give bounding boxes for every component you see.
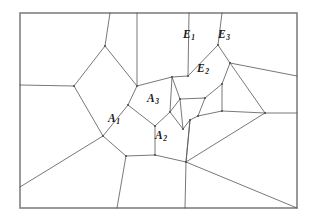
vertex-dot [229, 62, 231, 64]
edge [170, 77, 172, 112]
cell-label-subscript: 1 [116, 118, 120, 127]
vertex-dot [154, 125, 156, 127]
vertex-dot [169, 111, 171, 113]
vertex-dot [189, 119, 191, 121]
vertex-dot [171, 76, 173, 78]
edge [222, 63, 230, 84]
cell-label-subscript: 1 [191, 34, 195, 43]
vertex-dot [187, 75, 189, 77]
cell-label-e3: E3 [218, 29, 230, 41]
edge [103, 136, 126, 156]
cell-label-e1: E1 [183, 29, 195, 41]
edge [186, 113, 265, 162]
edge [190, 116, 198, 120]
edge [128, 105, 155, 126]
edge [188, 13, 189, 76]
edge [180, 99, 183, 129]
cell-label-base: E [197, 62, 205, 74]
vertex-dot [73, 85, 75, 87]
vertex-dot [104, 45, 106, 47]
edge [20, 85, 74, 86]
vertex-dot [102, 135, 104, 137]
edge [20, 136, 103, 187]
edge [105, 13, 110, 46]
edge [222, 111, 265, 113]
vertex-dot [264, 112, 266, 114]
cell-label-subscript: 2 [205, 68, 209, 77]
edge [137, 77, 172, 86]
vertex-dot [197, 115, 199, 117]
edge [117, 156, 126, 208]
edge [126, 155, 155, 156]
edge [186, 162, 297, 208]
edge [186, 120, 190, 162]
frame-rectangle [20, 13, 297, 208]
vertex-dot [179, 98, 181, 100]
frame-border [20, 13, 297, 208]
edge [74, 46, 105, 86]
edge [170, 112, 183, 129]
cell-label-base: A [155, 129, 163, 141]
cell-label-base: E [218, 28, 226, 40]
voronoi-edges [20, 13, 297, 208]
cell-label-base: E [183, 28, 191, 40]
vertex-dot [182, 128, 184, 130]
edge [218, 45, 230, 63]
vertex-dot [221, 83, 223, 85]
cell-label-base: A [108, 112, 116, 124]
edge [230, 63, 265, 113]
voronoi-figure: A1 A2 A3 E1 E2 E3 [0, 0, 315, 221]
vertex-dot [136, 85, 138, 87]
cell-label-a2: A2 [155, 130, 167, 142]
edge [172, 76, 188, 77]
voronoi-vertices [73, 44, 266, 163]
cell-label-a1: A1 [108, 113, 120, 125]
vertex-dot [127, 104, 129, 106]
edge [105, 46, 137, 86]
edge [172, 77, 180, 99]
edge [155, 155, 186, 162]
edge [180, 98, 205, 99]
edge [198, 111, 222, 116]
edge [205, 84, 222, 98]
vertex-dot [221, 110, 223, 112]
cell-label-a3: A3 [147, 93, 159, 105]
edge [74, 86, 103, 136]
vertex-dot [125, 155, 127, 157]
vertex-dot [217, 44, 219, 46]
edge [185, 162, 186, 208]
cell-label-base: A [147, 92, 155, 104]
edge [128, 86, 137, 105]
edge [230, 63, 297, 76]
cell-label-subscript: 3 [226, 34, 230, 43]
vertex-dot [204, 97, 206, 99]
cell-label-subscript: 3 [155, 98, 159, 107]
vertex-dot [185, 161, 187, 163]
cell-label-subscript: 2 [163, 135, 167, 144]
cell-label-e2: E2 [197, 63, 209, 75]
edge [170, 99, 180, 112]
edge [198, 98, 205, 116]
vertex-dot [154, 154, 156, 156]
voronoi-diagram-canvas [0, 0, 315, 221]
edge [155, 112, 170, 126]
